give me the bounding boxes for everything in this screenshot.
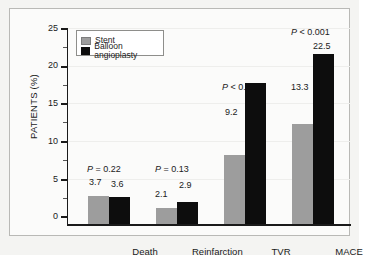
x-category-death: Death — [124, 246, 166, 255]
bar-mace-balloon[interactable] — [313, 54, 334, 224]
bar-group-mace: P < 0.001 13.3 22.5 — [292, 28, 334, 224]
black-swatch-icon — [81, 47, 90, 55]
bar-value-mace-balloon: 22.5 — [313, 42, 331, 51]
bar-tvr-balloon[interactable] — [245, 83, 266, 224]
y-tick-20: 20 — [38, 61, 58, 70]
bar-tvr-stent[interactable] — [224, 155, 245, 224]
bar-value-reinfarction-balloon: 2.9 — [179, 181, 192, 190]
y-tick-0: 0 — [38, 212, 58, 221]
pvalue-death: P = 0.22 — [87, 165, 121, 174]
chart-frame: PATIENTS (%) 25 20 15 10 5 0 — [9, 8, 350, 236]
y-tick-10: 10 — [38, 137, 58, 146]
bar-mace-stent[interactable] — [292, 124, 313, 224]
legend-label-balloon: Balloon angioplasty — [94, 42, 163, 60]
y-tick-5: 5 — [38, 175, 58, 184]
bar-death-balloon[interactable] — [109, 197, 130, 224]
bar-value-reinfarction-stent: 2.1 — [155, 190, 168, 199]
bar-value-death-stent: 3.7 — [89, 178, 102, 187]
x-category-mace: MACE — [328, 246, 367, 255]
bar-reinfarction-stent[interactable] — [156, 208, 177, 224]
y-axis-tick-labels: 25 20 15 10 5 0 — [34, 9, 58, 255]
y-tick-25: 25 — [38, 24, 58, 33]
bar-value-tvr-stent: 9.2 — [225, 108, 238, 117]
x-category-tvr: TVR — [260, 246, 302, 255]
x-category-reinfarction: Reinfarction — [192, 246, 234, 255]
bar-reinfarction-balloon[interactable] — [177, 202, 198, 224]
bar-value-mace-stent: 13.3 — [291, 83, 309, 92]
legend-item-balloon[interactable]: Balloon angioplasty — [81, 46, 163, 55]
y-tick-15: 15 — [38, 99, 58, 108]
x-axis-line — [67, 224, 351, 226]
bar-value-death-balloon: 3.6 — [111, 180, 124, 189]
chart-legend: Stent Balloon angioplasty — [76, 30, 164, 56]
gray-swatch-icon — [81, 37, 91, 45]
bar-death-stent[interactable] — [88, 196, 109, 224]
pvalue-mace: P < 0.001 — [291, 28, 330, 37]
bar-group-tvr: P < 0.001 9.2 18.7 — [224, 28, 266, 224]
pvalue-reinfarction: P = 0.13 — [155, 165, 189, 174]
